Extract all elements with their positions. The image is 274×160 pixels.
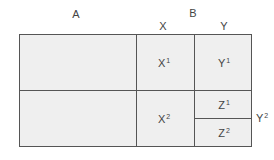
cell-z2-base: Z (218, 127, 225, 139)
label-a: A (72, 9, 79, 20)
label-y: Y (220, 21, 227, 32)
cell-z2-sup: 2 (226, 127, 230, 134)
cell-x1-sup: 1 (166, 57, 170, 64)
cell-y1-sup: 1 (226, 57, 230, 64)
label-b: B (189, 8, 196, 19)
cell-x2-base: X (158, 113, 165, 125)
cell-x1-base: X (158, 57, 165, 69)
label-x: X (159, 21, 166, 32)
cell-y1: Y1 (218, 55, 230, 69)
side-label-y2: Y2 (256, 110, 268, 124)
cell-z1-base: Z (218, 99, 225, 111)
side-label-sup: 2 (264, 112, 268, 119)
divider-row (19, 90, 252, 91)
cell-z2: Z2 (218, 125, 230, 139)
cell-z1-sup: 1 (226, 99, 230, 106)
cell-y1-base: Y (218, 57, 225, 69)
side-label-base: Y (256, 112, 263, 124)
cell-z1: Z1 (218, 97, 230, 111)
cell-x2-sup: 2 (166, 113, 170, 120)
cell-x1: X1 (158, 55, 170, 69)
divider-z (194, 118, 252, 119)
cell-x2: X2 (158, 111, 170, 125)
